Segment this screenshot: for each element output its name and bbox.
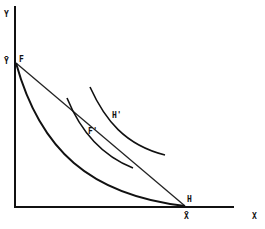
point-F-label: F [19, 56, 24, 64]
diagram-canvas: Y Ȳ F F' H' H X̄ X [0, 0, 265, 229]
budget-line-FH [16, 63, 185, 206]
diagram-svg [0, 0, 265, 229]
indifference-curve-H-prime [90, 87, 165, 155]
y-intercept-label: Ȳ [4, 58, 9, 66]
point-H-label: H [187, 196, 192, 204]
x-intercept-label: X̄ [184, 213, 189, 221]
y-axis-label: Y [4, 11, 9, 19]
x-axis-label: X [252, 213, 257, 221]
indifference-curve-F-prime [67, 98, 133, 168]
point-F-prime-label: F' [88, 128, 98, 136]
point-H-prime-label: H' [112, 112, 122, 120]
